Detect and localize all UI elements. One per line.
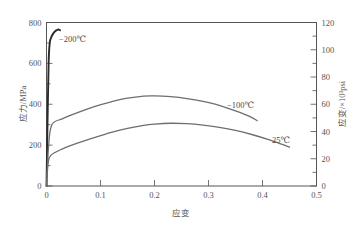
x-tick-label: 0.1: [95, 190, 106, 200]
y2-axis-title: 应变/×10³psi: [337, 80, 347, 127]
y-axis-title: 应力/MPa: [18, 86, 28, 123]
x-tick-label: 0: [44, 190, 48, 200]
x-tick-label: 0.4: [257, 190, 268, 200]
y-tick-label: 0: [37, 181, 41, 191]
y-tick-label: 600: [29, 58, 42, 68]
series-label-25: 25℃: [272, 135, 290, 145]
y-tick-label: 400: [29, 99, 42, 109]
y2-tick-label: 120: [322, 18, 335, 28]
x-tick-label: 0.2: [149, 190, 160, 200]
stress-strain-chart: 0200400600800 020406080100120 00.10.20.3…: [0, 0, 360, 230]
y2-tick-label: 20: [322, 154, 331, 164]
y-tick-label: 200: [29, 140, 42, 150]
chart-background: [0, 0, 360, 230]
x-axis-title: 应变: [172, 208, 190, 218]
x-tick-label: 0.3: [203, 190, 214, 200]
y2-tick-label: 80: [322, 72, 331, 82]
series-label-minus100: −100℃: [227, 100, 254, 110]
chart-canvas: 0200400600800 020406080100120 00.10.20.3…: [0, 0, 360, 230]
y2-tick-label: 0: [322, 181, 326, 191]
y2-tick-label: 40: [322, 127, 331, 137]
y2-tick-label: 100: [322, 45, 335, 55]
y-tick-label: 800: [29, 18, 42, 28]
series-label-minus200: −200℃: [59, 34, 86, 44]
y2-tick-label: 60: [322, 99, 331, 109]
x-tick-label: 0.5: [311, 190, 322, 200]
